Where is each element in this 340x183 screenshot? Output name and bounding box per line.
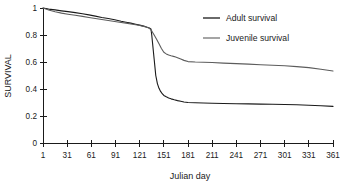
y-tick-label: 0.2 xyxy=(26,112,38,121)
data-series-group xyxy=(43,8,333,106)
y-tick-label: 1 xyxy=(32,4,37,13)
y-tick-label: 0.6 xyxy=(26,58,38,67)
legend-label: Adult survival xyxy=(226,13,277,23)
x-tick-label: 1 xyxy=(41,151,46,160)
y-axis-title: SURVIVAL xyxy=(3,54,13,98)
x-tick-label: 301 xyxy=(278,151,292,160)
y-axis: 00.20.40.60.81 xyxy=(26,4,47,148)
survival-chart-figure: 00.20.40.60.81 1316191121151181211241271… xyxy=(0,0,340,183)
x-tick-label: 181 xyxy=(181,151,195,160)
legend-label: Juvenile survival xyxy=(226,33,289,43)
x-axis: 1316191121151181211241271301331361 xyxy=(41,140,340,161)
y-tick-label: 0.4 xyxy=(26,85,38,94)
x-tick-label: 241 xyxy=(229,151,243,160)
chart-canvas: 00.20.40.60.81 1316191121151181211241271… xyxy=(0,0,340,183)
chart-legend: Adult survivalJuvenile survival xyxy=(203,13,289,43)
x-tick-label: 31 xyxy=(63,151,73,160)
x-tick-label: 121 xyxy=(133,151,147,160)
x-tick-label: 61 xyxy=(87,151,97,160)
x-tick-label: 151 xyxy=(157,151,171,160)
x-tick-label: 211 xyxy=(206,151,219,160)
x-axis-title: Julian day xyxy=(170,171,211,181)
y-tick-label: 0 xyxy=(32,139,37,148)
x-tick-label: 331 xyxy=(302,151,316,160)
x-tick-label: 361 xyxy=(326,151,340,160)
series-line-juvenile-survival xyxy=(43,8,333,71)
series-line-adult-survival xyxy=(43,8,333,106)
y-tick-label: 0.8 xyxy=(26,31,38,40)
x-tick-label: 271 xyxy=(254,151,268,160)
x-tick-label: 91 xyxy=(111,151,121,160)
